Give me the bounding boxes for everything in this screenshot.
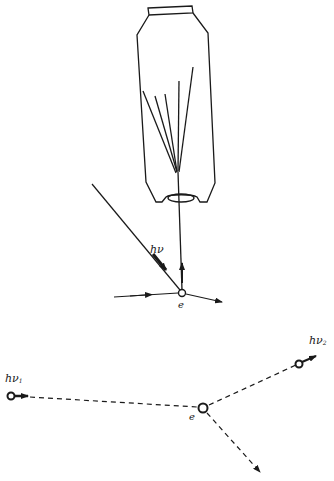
scattered-photon-label: hν2 (309, 335, 327, 346)
photon-label: hν (150, 244, 164, 255)
scattered-photon-sub: 2 (323, 339, 327, 346)
bottom-scattering (8, 356, 317, 472)
incident-photon-text: hν (5, 372, 19, 385)
detector-chamber-icon (137, 6, 215, 290)
scattered-photon-text: hν (309, 334, 323, 347)
compton-diagram: hν e hν1 hν2 e (0, 0, 334, 481)
incident-photon-icon (8, 393, 15, 400)
incident-photon-label: hν1 (5, 373, 23, 384)
scattered-photon-icon (296, 361, 303, 368)
electron-label-top: e (178, 300, 184, 310)
incident-photon-sub: 1 (19, 377, 23, 384)
electron-icon (199, 404, 208, 413)
electron-label-bottom: e (189, 412, 195, 422)
diagram-canvas (0, 0, 334, 481)
